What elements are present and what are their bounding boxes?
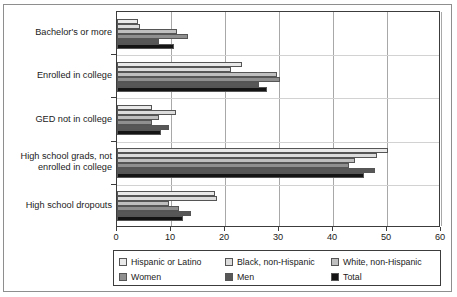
legend-label: Black, non-Hispanic [237,257,315,267]
legend-swatch-icon [331,273,339,281]
legend-label: Total [343,272,362,282]
x-axis-tick-mark [116,227,117,231]
gridline [441,12,442,226]
x-axis-tick-mark [224,227,225,231]
gridline [225,12,226,226]
bar [117,216,183,221]
legend-item[interactable]: Hispanic or Latino [119,257,225,267]
plot-area [116,11,440,227]
legend-swatch-icon [331,258,339,266]
legend-item[interactable]: Women [119,272,225,282]
legend: Hispanic or LatinoBlack, non-HispanicWhi… [113,250,441,286]
x-axis-tick-mark [386,227,387,231]
bar [117,44,174,49]
legend-label: Women [131,272,161,282]
x-axis-tick-label: 40 [317,232,347,242]
x-axis-tick-label: 50 [371,232,401,242]
gridline [333,12,334,226]
y-axis-category-label: Bachelor's or more [0,27,112,38]
x-axis-tick-label: 20 [209,232,239,242]
x-axis-tick-label: 30 [263,232,293,242]
legend-swatch-icon [225,258,233,266]
chart-figure: Bachelor's or moreEnrolled in collegeGED… [0,0,457,297]
legend-swatch-icon [225,273,233,281]
legend-label: Hispanic or Latino [131,257,201,267]
legend-entries: Hispanic or LatinoBlack, non-HispanicWhi… [119,254,437,284]
x-axis-tick-mark [170,227,171,231]
y-axis-category-labels: Bachelor's or moreEnrolled in collegeGED… [0,11,112,227]
x-axis-tick-mark [332,227,333,231]
legend-swatch-icon [119,258,127,266]
legend-swatch-icon [119,273,127,281]
legend-label: Men [237,272,254,282]
x-axis-tick-label: 0 [101,232,131,242]
x-axis-tick-mark [278,227,279,231]
x-axis-tick-mark [440,227,441,231]
bar [117,130,161,135]
x-axis-tick-label: 10 [155,232,185,242]
gridline [387,12,388,226]
legend-item[interactable]: Black, non-Hispanic [225,257,331,267]
group-separator [117,142,439,143]
bar [117,87,267,92]
legend-item[interactable]: White, non-Hispanic [331,257,437,267]
gridline [279,12,280,226]
y-axis-category-label: High school dropouts [0,200,112,211]
y-axis-category-label: High school grads, not enrolled in colle… [0,151,112,173]
group-separator [117,98,439,99]
legend-item[interactable]: Men [225,272,331,282]
group-separator [117,55,439,56]
y-axis-category-label: GED not in college [0,114,112,125]
y-axis-category-label: Enrolled in college [0,70,112,81]
legend-item[interactable]: Total [331,272,437,282]
x-axis-tick-label: 60 [425,232,455,242]
bar [117,173,364,178]
legend-label: White, non-Hispanic [343,257,422,267]
group-separator [117,185,439,186]
